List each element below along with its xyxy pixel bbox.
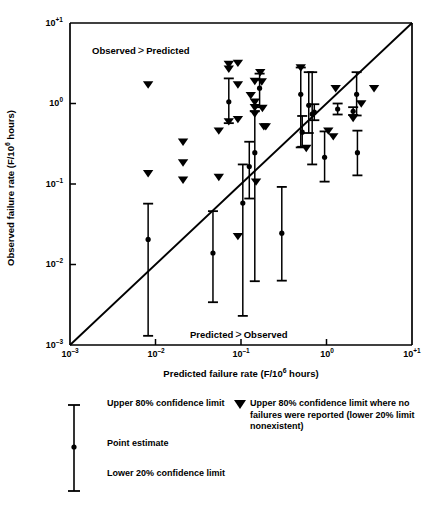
point-estimate-marker	[351, 109, 356, 114]
point-estimate-marker	[257, 86, 262, 91]
x-axis-title: Predicted failure rate (F/106 hours)	[163, 369, 318, 379]
point-estimate-marker	[322, 155, 327, 160]
point-estimate-marker	[312, 110, 317, 115]
chart-legend: Upper 80% confidence limit Point estimat…	[0, 390, 438, 506]
annotation-predicted-gt-observed: Predicted>Observed	[190, 329, 288, 340]
point-estimate-marker	[279, 231, 284, 236]
point-estimate-marker	[240, 200, 245, 205]
point-estimate-marker	[252, 150, 257, 155]
down-triangle-marker	[328, 133, 338, 140]
point-estimate-marker	[210, 250, 215, 255]
down-triangle-marker	[255, 69, 265, 76]
down-triangle-marker	[178, 159, 188, 166]
annotation-text: Predicted	[190, 329, 233, 340]
point-estimate-marker	[226, 99, 231, 104]
down-triangle-marker	[369, 85, 379, 92]
down-triangle-marker	[178, 139, 188, 146]
y-tick-label: 10–1	[46, 180, 63, 189]
y-tick-label: 100	[49, 99, 63, 108]
down-triangle-marker	[143, 81, 153, 88]
down-triangle-marker	[301, 145, 311, 152]
data-point-error-bar	[238, 164, 248, 315]
down-triangle-marker	[250, 110, 260, 117]
y-axis-title: Observed failure rate (F/106 hours)	[6, 110, 16, 266]
point-estimate-marker	[247, 164, 252, 169]
down-triangle-marker	[224, 66, 234, 73]
y-tick-label: 10–2	[46, 260, 63, 269]
legend-label-lower-limit: Lower 20% confidence limit	[107, 468, 227, 480]
data-point-error-bar	[143, 204, 153, 336]
point-estimate-marker	[146, 237, 151, 242]
legend-label-point-estimate: Point estimate	[107, 438, 227, 450]
data-point-error-bar	[333, 104, 343, 115]
down-triangle-marker	[233, 81, 243, 88]
data-point-error-bar	[296, 68, 306, 148]
down-triangle-marker	[246, 92, 256, 99]
failure-rate-scatter-figure: 10+1 100 10–1 10–2 10–3 10–3 10–2 10–1 1…	[0, 0, 438, 506]
down-triangle-marker	[143, 170, 153, 177]
data-point-error-bar	[352, 131, 362, 176]
legend-label-triangle-note: Upper 80% confidence limit where no fail…	[250, 398, 425, 433]
down-triangle-marker	[224, 118, 234, 125]
legend-down-triangle-marker	[232, 394, 248, 414]
greater-than-symbol: >	[233, 328, 243, 340]
data-point-error-bar	[208, 211, 218, 302]
down-triangle-marker	[214, 174, 224, 181]
point-estimate-marker	[355, 150, 360, 155]
y-tick-label: 10+1	[46, 19, 63, 28]
x-tick-label: 10+1	[403, 350, 420, 359]
annotation-text: Predicted	[146, 45, 189, 56]
x-tick-label: 10–2	[147, 350, 164, 359]
point-estimate-marker	[298, 92, 303, 97]
down-triangle-marker	[251, 178, 261, 185]
annotation-text: Observed	[92, 45, 136, 56]
greater-than-symbol: >	[136, 44, 146, 56]
point-estimate-marker	[335, 106, 340, 111]
data-point-error-bar	[277, 187, 287, 281]
data-point-error-bar	[244, 142, 254, 199]
down-triangle-marker	[233, 116, 243, 123]
data-point-error-bar	[320, 131, 330, 181]
data-point-error-bar	[250, 111, 260, 281]
down-triangle-marker	[257, 78, 267, 85]
data-point-error-bar	[224, 78, 234, 123]
down-triangle-marker	[233, 233, 243, 240]
down-triangle-marker	[233, 60, 243, 67]
down-triangle-marker	[348, 115, 358, 122]
x-tick-label: 100	[320, 350, 334, 359]
x-tick-label: 10–3	[61, 350, 78, 359]
legend-label-upper-limit: Upper 80% confidence limit	[107, 398, 227, 410]
down-triangle-marker	[178, 177, 188, 184]
annotation-text: Observed	[244, 329, 288, 340]
point-estimate-marker	[354, 92, 359, 97]
annotation-observed-gt-predicted: Observed>Predicted	[92, 45, 190, 56]
down-triangle-marker	[214, 127, 224, 134]
legend-error-bar-marker	[60, 394, 100, 494]
data-point-error-bar	[297, 116, 307, 147]
x-tick-label: 10–1	[232, 350, 249, 359]
